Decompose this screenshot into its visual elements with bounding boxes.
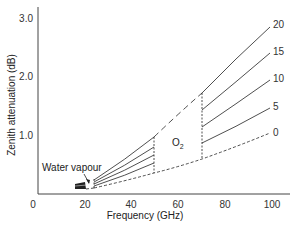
arrowhead-icon [86,179,90,184]
x-tick-label: 0 [30,199,36,210]
curve-15-segment-a [94,147,154,182]
series-label-10: 10 [273,73,285,84]
x-axis-title: Frequency (GHz) [107,210,184,221]
x-tick-label: 80 [219,199,231,210]
x-tick-label: 100 [264,199,281,210]
series-label-15: 15 [273,46,285,57]
series-label-0: 0 [273,127,279,138]
water-vapour-label: Water vapour [42,162,102,173]
curve-5-segment-b [202,108,270,143]
x-tick-label: 40 [125,199,137,210]
curve-15-segment-b [202,53,270,110]
curve-0-dashed [94,133,270,188]
series-label-20: 20 [273,19,285,30]
y-axis-title: Zenith attenuation (dB) [6,54,17,156]
curve-20-segment-a [94,137,154,180]
y-tick-label: 2.0 [19,71,33,82]
y-tick-label: 1.0 [19,130,33,141]
attenuation-chart: 1.0 2.0 3.0 0 20 40 60 80 100 Frequency … [0,0,299,228]
curve-20-segment-b [202,27,270,93]
series-label-5: 5 [273,101,279,112]
o2-label: O2 [172,137,184,150]
y-tick-label: 3.0 [19,13,33,24]
curve-20-dashed [154,93,202,137]
x-tick-label: 60 [172,199,184,210]
x-tick-label: 20 [79,199,91,210]
curve-10-segment-b [202,80,270,127]
curve-low-extension [86,188,94,189]
